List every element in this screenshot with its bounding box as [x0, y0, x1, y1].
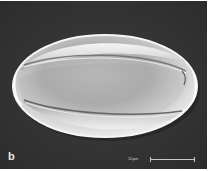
scale-bar: [150, 159, 195, 160]
panel-label: b: [8, 151, 15, 162]
sem-micrograph: b 10μm: [0, 1, 207, 169]
pollen-grain-image: [0, 1, 207, 169]
scale-bar-label: 10μm: [128, 157, 139, 161]
figure-frame: b 10μm: [0, 0, 210, 171]
